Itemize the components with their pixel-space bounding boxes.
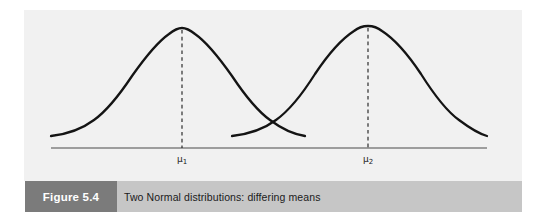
mu1-subscript: 1 — [183, 158, 187, 166]
figure-container: μ1 μ2 Figure 5.4 Two Normal distribution… — [0, 0, 542, 224]
figure-number-label: Figure 5.4 — [43, 191, 99, 203]
figure-caption-text: Two Normal distributions: differing mean… — [124, 191, 321, 203]
mu2-subscript: 2 — [369, 158, 373, 166]
mu1-symbol: μ — [177, 154, 183, 164]
x-tick-label-mu2: μ2 — [363, 155, 373, 164]
x-tick-label-mu1: μ1 — [177, 155, 187, 164]
distribution-plot — [24, 10, 522, 181]
figure-number-box: Figure 5.4 — [25, 181, 117, 212]
figure-caption-text-wrap: Two Normal distributions: differing mean… — [117, 181, 522, 212]
normal-curve-1 — [51, 28, 305, 136]
plot-panel: μ1 μ2 — [24, 10, 522, 181]
figure-caption-bar: Figure 5.4 Two Normal distributions: dif… — [25, 181, 522, 212]
mu2-symbol: μ — [363, 154, 369, 164]
